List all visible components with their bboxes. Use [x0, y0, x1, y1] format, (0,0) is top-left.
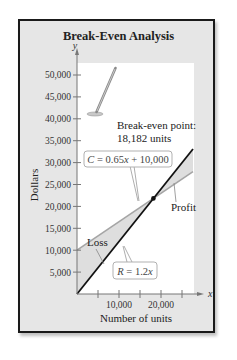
y-tick-label: 20,000 — [45, 202, 71, 212]
y-tick-label: 10,000 — [45, 246, 71, 256]
revenue-equation: R = 1.2x — [116, 266, 153, 277]
revenue-eq-part: = 1.2 — [124, 266, 148, 277]
y-tick-label: 5,000 — [50, 268, 72, 278]
break-even-chart: Break-Even Analysis y x 5,000 10,000 15,… — [0, 0, 237, 360]
profit-label: Profit — [171, 201, 196, 213]
y-tick-labels: 5,000 10,000 15,000 20,000 25,000 30,000… — [45, 70, 71, 277]
y-tick-label: 50,000 — [45, 70, 71, 80]
cost-equation: C = 0.65x + 10,000 — [87, 154, 168, 165]
x-axis-title: Number of units — [100, 312, 172, 324]
y-tick-label: 25,000 — [45, 180, 71, 190]
x-axis-letter: x — [207, 288, 213, 299]
y-axis-letter: y — [72, 40, 78, 51]
break-even-label-line2: 18,182 units — [117, 132, 171, 144]
cost-eq-tail: + 10,000 — [129, 154, 169, 165]
revenue-eq-x: x — [147, 266, 153, 277]
x-tick-label-10000: 10,000 — [106, 300, 132, 310]
x-axis-arrow-icon — [197, 292, 204, 296]
chart-title: Break-Even Analysis — [63, 29, 174, 43]
break-even-label-line1: Break-even point: — [117, 119, 196, 131]
y-tick-label: 15,000 — [45, 224, 71, 234]
y-axis-title: Dollars — [28, 169, 40, 201]
x-tick-label-20000: 20,000 — [148, 300, 174, 310]
break-even-point — [151, 196, 156, 201]
y-tick-label: 45,000 — [45, 92, 71, 102]
cost-eq-part: = 0.65 — [94, 154, 124, 165]
y-tick-label: 30,000 — [45, 158, 71, 168]
y-tick-label: 35,000 — [45, 136, 71, 146]
loss-label: Loss — [87, 236, 108, 248]
y-tick-label: 40,000 — [45, 114, 71, 124]
